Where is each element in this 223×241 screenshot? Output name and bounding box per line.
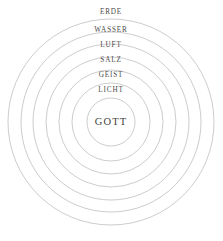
center-label-gott: GOTT bbox=[95, 117, 127, 128]
ring-label-salz: SALZ bbox=[100, 57, 121, 64]
ring-label-licht: LICHT bbox=[98, 87, 123, 94]
ring-label-wasser: WASSER bbox=[94, 27, 127, 34]
concentric-spheres-diagram: ERDEWASSERLUFTSALZGEISTLICHT GOTT bbox=[0, 0, 223, 241]
ring-label-erde: ERDE bbox=[100, 9, 122, 16]
ring-label-luft: LUFT bbox=[100, 42, 121, 49]
ring-label-geist: GEIST bbox=[99, 72, 124, 79]
